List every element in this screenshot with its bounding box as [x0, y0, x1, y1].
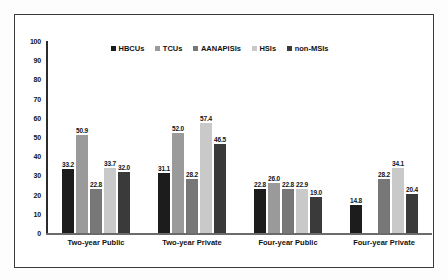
bar-value-label: 33.2: [62, 161, 74, 168]
bar-group-two-year-private: 31.152.028.257.446.5: [144, 41, 240, 233]
y-axis-tick-20: 20: [34, 191, 41, 198]
bar-slot: 32.0: [118, 41, 130, 233]
bar-slot: 31.1: [158, 41, 170, 233]
bar-group-four-year-private: 14.828.234.120.4: [336, 41, 432, 233]
y-axis-tick-100: 100: [30, 38, 41, 45]
bar-group-four-year-public: 22.826.022.822.919.0: [240, 41, 336, 233]
chart-frame: 1009080706050403020100 HBCUsTCUsAANAPISI…: [14, 14, 434, 268]
bar-slot: 22.8: [254, 41, 266, 233]
bar-slot: 22.8: [90, 41, 102, 233]
bar-value-label: 22.8: [282, 181, 294, 188]
bar-value-label: 19.0: [310, 189, 322, 196]
bar-non-msis[interactable]: 32.0: [118, 172, 130, 233]
bar-groups: 33.250.922.833.732.031.152.028.257.446.5…: [48, 41, 432, 233]
bar-slot: 22.8: [282, 41, 294, 233]
bar-group-two-year-public: 33.250.922.833.732.0: [48, 41, 144, 233]
bar-slot: 19.0: [310, 41, 322, 233]
y-axis-tick-40: 40: [34, 153, 41, 160]
bar-hbcus[interactable]: 14.8: [350, 205, 362, 233]
x-axis-line: [46, 233, 432, 235]
bar-value-label: 34.1: [392, 160, 404, 167]
bar-value-label: 28.2: [378, 171, 390, 178]
bar-slot: 26.0: [268, 41, 280, 233]
y-axis-tick-10: 10: [34, 210, 41, 217]
bar-value-label: 22.8: [254, 181, 266, 188]
bar-value-label: 14.8: [350, 197, 362, 204]
y-axis-tick-labels: 1009080706050403020100: [21, 41, 41, 233]
bar-slot: 34.1: [392, 41, 404, 233]
bar-hbcus[interactable]: 22.8: [254, 189, 266, 233]
bar-non-msis[interactable]: 19.0: [310, 197, 322, 233]
plot-area: 1009080706050403020100 HBCUsTCUsAANAPISI…: [15, 15, 433, 267]
bar-hsis[interactable]: 22.9: [296, 189, 308, 233]
bar-slot: 28.2: [186, 41, 198, 233]
x-axis-label-four-year-public: Four-year Public: [258, 238, 317, 247]
bar-value-label: 46.5: [214, 136, 226, 143]
y-axis-tick-80: 80: [34, 76, 41, 83]
bar-aanapisis[interactable]: 28.2: [378, 179, 390, 233]
bar-hsis[interactable]: 34.1: [392, 168, 404, 233]
x-axis-label-two-year-public: Two-year Public: [68, 238, 125, 247]
bar-aanapisis[interactable]: 22.8: [90, 189, 102, 233]
x-axis-label-four-year-private: Four-year Private: [353, 238, 415, 247]
bar-slot: 20.4: [406, 41, 418, 233]
bar-value-label: 52.0: [172, 125, 184, 132]
bar-tcus[interactable]: 50.9: [76, 135, 88, 233]
bar-slot: 33.7: [104, 41, 116, 233]
bar-aanapisis[interactable]: 22.8: [282, 189, 294, 233]
bar-value-label: 32.0: [118, 164, 130, 171]
y-axis-tick-70: 70: [34, 95, 41, 102]
chart-page: 1009080706050403020100 HBCUsTCUsAANAPISI…: [0, 0, 448, 280]
bar-tcus[interactable]: 52.0: [172, 133, 184, 233]
y-axis-tick-30: 30: [34, 172, 41, 179]
bar-slot: 22.9: [296, 41, 308, 233]
bar-slot: 14.8: [350, 41, 362, 233]
bar-slot: 52.0: [172, 41, 184, 233]
y-axis-tick-90: 90: [34, 57, 41, 64]
bar-slot: 46.5: [214, 41, 226, 233]
y-axis-tick-50: 50: [34, 134, 41, 141]
bar-value-label: 22.8: [90, 181, 102, 188]
bar-slot: 28.2: [378, 41, 390, 233]
bar-slot: 33.2: [62, 41, 74, 233]
bar-hbcus[interactable]: 31.1: [158, 173, 170, 233]
bar-tcus[interactable]: 26.0: [268, 183, 280, 233]
y-axis-tick-0: 0: [37, 230, 41, 237]
bar-hsis[interactable]: 33.7: [104, 168, 116, 233]
y-axis-tick-60: 60: [34, 114, 41, 121]
bar-value-label: 33.7: [104, 160, 116, 167]
bar-value-label: 28.2: [186, 171, 198, 178]
bar-slot: 50.9: [76, 41, 88, 233]
bar-non-msis[interactable]: 46.5: [214, 144, 226, 233]
bar-slot: [364, 41, 376, 233]
bar-value-label: 26.0: [268, 175, 280, 182]
bar-non-msis[interactable]: 20.4: [406, 194, 418, 233]
bar-hsis[interactable]: 57.4: [200, 123, 212, 233]
bar-slot: 57.4: [200, 41, 212, 233]
bar-value-label: 22.9: [296, 181, 308, 188]
bar-value-label: 57.4: [200, 115, 212, 122]
bar-aanapisis[interactable]: 28.2: [186, 179, 198, 233]
bar-value-label: 31.1: [158, 165, 170, 172]
bar-value-label: 50.9: [76, 127, 88, 134]
bar-value-label: 20.4: [406, 186, 418, 193]
x-axis-label-two-year-private: Two-year Private: [162, 238, 221, 247]
bar-hbcus[interactable]: 33.2: [62, 169, 74, 233]
